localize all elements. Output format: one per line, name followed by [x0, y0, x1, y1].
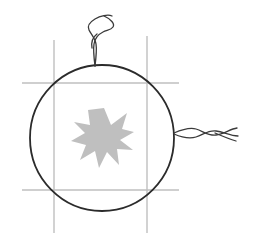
figure-svg — [0, 0, 256, 233]
canvas-background — [0, 0, 256, 233]
figure-canvas — [0, 0, 256, 233]
